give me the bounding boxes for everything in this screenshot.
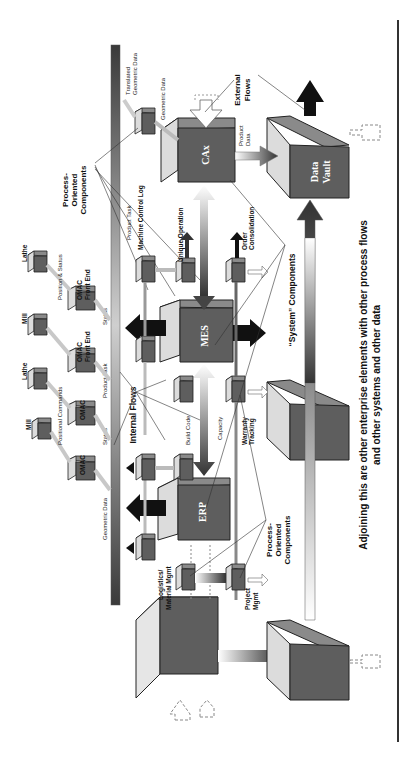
machine-lathe-1 (28, 251, 47, 272)
translated-geometric-label-1: Translated (125, 67, 131, 95)
callout-process-bottom-3: Components (283, 515, 292, 564)
mill-2-label: Mill (25, 419, 32, 430)
translated-geometric-label-2: Geometric Data (132, 52, 138, 95)
callout-process-top-2: Oriented (70, 173, 79, 206)
product-data-label: Product (238, 125, 244, 146)
omac-fe-1b: Front End (84, 269, 91, 300)
process-node-order-consolidation (226, 258, 245, 282)
geometric-data-node (135, 108, 155, 134)
geometric-data-left-label: Geometric Data (102, 497, 108, 540)
omac-4-label: OMAC (79, 455, 86, 475)
mes-label: MES (199, 325, 210, 347)
order-consolidation-label-1: Order (241, 232, 248, 250)
callout-process-top-1: Process- (61, 173, 70, 207)
process-node-erp-upper (136, 454, 155, 480)
mes-box: MES (160, 300, 233, 362)
logistics-label-1: Logistics/ (157, 569, 165, 600)
cax-label: CAx (200, 145, 211, 164)
cax-box: CAx (161, 118, 235, 182)
data-vault-label: Data (309, 162, 320, 183)
enterprise-box-left (136, 597, 218, 698)
data-vault-label-2: Vault (321, 160, 332, 184)
machine-control-log-label: Machine Control Log (137, 185, 145, 250)
build-code-label: Build Code (185, 415, 191, 445)
cax-mes-arrow (193, 185, 215, 296)
omac-3-label: OMAC (79, 400, 86, 420)
system-flow-bar-middle (305, 238, 315, 383)
process-node-erp-side (174, 454, 193, 480)
geometric-data-cax-label: Geometric Data (160, 77, 166, 120)
positional-commands-label: Positional Commands (57, 387, 63, 445)
machine-mill-2 (32, 418, 51, 439)
internal-flows-label: Internal Flows (128, 386, 138, 443)
lathe-2-label: Lathe (21, 362, 28, 380)
product-task-mid-label: Product Task (102, 362, 108, 398)
caption-line-1: Adjoining this are other enterprise elem… (358, 220, 369, 550)
omac-fe-2a: OMAC (76, 342, 83, 362)
external-flows-2: Flows (243, 78, 252, 101)
callout-process-top-3: Components (79, 165, 88, 214)
enterprise-flow-diagram: Data Vault CAx Product Data Geometric Da… (0, 0, 401, 758)
product-task-top-label: Product Task (126, 204, 132, 240)
process-node-erp-lower (136, 534, 155, 560)
project-mgmt-label-2: Mgmt (252, 592, 260, 610)
caption-line-2: and other systems and other data (371, 305, 382, 465)
process-node-mes-upper (136, 336, 155, 362)
product-data-label-2: Data (245, 133, 251, 146)
erp-box: ERP (158, 478, 230, 540)
capacity-arrow (193, 364, 215, 476)
order-consolidation-label-2: Consolidation (248, 207, 255, 250)
callout-process-bottom-2: Oriented (274, 523, 283, 556)
position-status-label: Position & Status (57, 254, 63, 300)
external-flow-arrow (296, 80, 324, 116)
data-vault-box: Data Vault (267, 116, 349, 198)
external-flows-lines (205, 75, 305, 112)
warranty-label-2: Tracking (248, 418, 256, 445)
process-node-machine-control (136, 256, 155, 282)
dashed-source-arrow (195, 95, 218, 100)
process-node-project-mgmt (226, 564, 245, 590)
process-node-build-code (174, 376, 193, 402)
external-flows-1: External (233, 74, 242, 106)
project-mgmt-label-1: Project (244, 587, 252, 610)
mill-1-label: Mill (21, 313, 28, 324)
omac-fe-2b: Front End (84, 331, 91, 362)
erp-label: ERP (197, 502, 208, 522)
lathe-1-label: Lathe (21, 244, 28, 262)
process-node-logistics (176, 564, 195, 590)
logistics-label-2: Material Mgmt (165, 565, 173, 610)
system-components-label: “System” Components (287, 253, 297, 346)
omac-fe-1a: OMAC (76, 280, 83, 300)
mes-system-arrow (233, 319, 266, 347)
machine-lathe-2 (28, 368, 47, 389)
process-bus-bar (111, 45, 120, 605)
machine-mill-1 (28, 314, 47, 335)
callout-process-bottom-1: Process- (265, 523, 274, 557)
capacity-label: Capacity (217, 417, 223, 440)
unique-operation-label: Unique Operation (177, 207, 185, 262)
enterprise-box-bottom (267, 620, 349, 700)
